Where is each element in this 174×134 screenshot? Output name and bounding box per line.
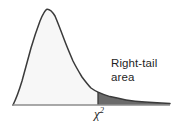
right-tail-area-label-line2: area <box>111 71 157 85</box>
chi-exponent: 2 <box>100 105 104 115</box>
right-tail-area-label-line1: Right-tail <box>111 57 157 71</box>
right-tail-area-label: Right-tail area <box>111 57 157 84</box>
distribution-body-area <box>13 9 98 105</box>
chi-square-distribution-figure: Right-tail area χ2 <box>0 0 174 134</box>
chi-square-axis-label: χ2 <box>88 106 110 122</box>
